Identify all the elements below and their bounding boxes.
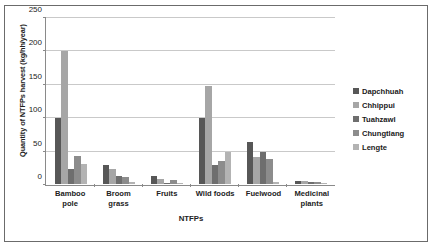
y-tick-label: 0: [38, 172, 42, 181]
y-tick-mark: [43, 50, 46, 51]
plot-area: 050100150200250: [45, 18, 335, 186]
bar-group: [191, 18, 239, 184]
legend-item[interactable]: Chhippui: [353, 98, 427, 112]
y-tick-mark: [43, 17, 46, 18]
y-tick-label: 200: [29, 38, 42, 47]
bar-groups: [47, 18, 335, 184]
bar-group: [287, 18, 335, 184]
bar[interactable]: [81, 164, 88, 184]
plot-wrapper: 050100150200250: [45, 18, 335, 186]
legend-item[interactable]: Dapchhuah: [353, 84, 427, 98]
legend: DapchhuahChhippuiTuahzawlChungtlangLengt…: [353, 84, 427, 154]
bar[interactable]: [177, 183, 184, 184]
bar[interactable]: [225, 152, 232, 184]
legend-label: Lengte: [362, 143, 387, 152]
legend-swatch-icon: [353, 130, 359, 136]
y-tick-label: 50: [33, 138, 42, 147]
bar-group: [95, 18, 143, 184]
x-tick-mark: [286, 184, 287, 187]
legend-item[interactable]: Chungtlang: [353, 126, 427, 140]
x-tick-mark: [238, 184, 239, 187]
y-tick-label: 250: [29, 5, 42, 14]
legend-item[interactable]: Tuahzawl: [353, 112, 427, 126]
x-axis-label: Wild foods: [191, 189, 239, 208]
bar[interactable]: [129, 182, 136, 184]
y-tick-mark: [43, 84, 46, 85]
x-tick-mark: [142, 184, 143, 187]
x-axis-label: Fuelwood: [239, 189, 287, 208]
bar-group: [47, 18, 95, 184]
y-tick-mark: [43, 184, 46, 185]
legend-item[interactable]: Lengte: [353, 140, 427, 154]
bar-group: [239, 18, 287, 184]
x-axis-title: NTFPs: [46, 214, 336, 223]
legend-swatch-icon: [353, 88, 359, 94]
bar[interactable]: [61, 51, 68, 184]
chart-frame: Quantity of NTFPs harvest (kg/hh/year) 0…: [4, 5, 428, 242]
legend-swatch-icon: [353, 144, 359, 150]
x-axis-labels: Bamboo poleBroom grassFruitsWild foodsFu…: [46, 189, 336, 208]
legend-label: Tuahzawl: [362, 115, 396, 124]
y-tick-label: 100: [29, 105, 42, 114]
x-tick-mark: [94, 184, 95, 187]
x-axis-label: Fruits: [143, 189, 191, 208]
x-axis-label: Broom grass: [94, 189, 142, 208]
legend-swatch-icon: [353, 116, 359, 122]
x-tick-mark: [190, 184, 191, 187]
bar[interactable]: [273, 182, 280, 184]
bar[interactable]: [321, 183, 328, 184]
bar-group: [143, 18, 191, 184]
y-axis-title: Quantity of NTFPs harvest (kg/hh/year): [18, 11, 27, 171]
bar[interactable]: [266, 159, 273, 184]
y-tick-mark: [43, 117, 46, 118]
x-axis-label: Medicinal plants: [288, 189, 336, 208]
legend-label: Dapchhuah: [362, 87, 403, 96]
legend-label: Chhippui: [362, 101, 395, 110]
y-tick-label: 150: [29, 71, 42, 80]
y-tick-mark: [43, 151, 46, 152]
x-axis-label: Bamboo pole: [46, 189, 94, 208]
legend-label: Chungtlang: [362, 129, 404, 138]
legend-swatch-icon: [353, 102, 359, 108]
